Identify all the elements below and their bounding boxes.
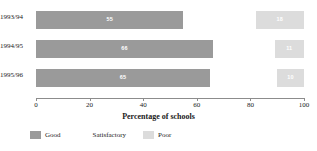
bar-segment-satisfactory-1993-94[interactable]: [183, 11, 255, 29]
bar-value-poor-1994-95: 11: [286, 46, 292, 52]
category-label-1994-95: 1994/95: [0, 43, 33, 50]
bar-value-good-1993-94: 55: [106, 17, 113, 23]
bar-value-good-1995-96: 65: [120, 75, 127, 81]
legend-item-good[interactable]: Good: [30, 131, 61, 139]
legend: Good Satisfactory Poor: [30, 131, 188, 139]
bar-row-1993-94: 55 18: [36, 11, 304, 29]
legend-item-satisfactory[interactable]: Satisfactory: [78, 131, 126, 139]
bar-segment-satisfactory-1994-95[interactable]: [213, 40, 275, 58]
bar-segment-good-1993-94[interactable]: 55: [36, 11, 183, 29]
x-tick-label-0: 0: [34, 102, 38, 109]
bar-row-1994-95: 66 11: [36, 40, 304, 58]
legend-swatch-good-icon: [30, 131, 41, 139]
bar-value-poor-1993-94: 18: [277, 17, 284, 23]
bar-segment-good-1995-96[interactable]: 65: [36, 69, 210, 87]
bar-segment-poor-1994-95[interactable]: 11: [275, 40, 304, 58]
category-label-1995-96: 1995/96: [0, 72, 33, 79]
x-tick-label-80: 80: [247, 102, 254, 109]
bar-segment-good-1994-95[interactable]: 66: [36, 40, 213, 58]
bar-segment-satisfactory-1995-96[interactable]: [210, 69, 277, 87]
legend-label-poor: Poor: [158, 132, 171, 139]
legend-label-good: Good: [45, 132, 61, 139]
x-tick-label-60: 60: [193, 102, 200, 109]
stacked-bar-chart: 1993/94 1994/95 1995/96 55 18 66 11: [0, 0, 317, 151]
x-axis-line: [36, 98, 304, 99]
bar-value-good-1994-95: 66: [121, 46, 128, 52]
bar-segment-poor-1995-96[interactable]: 10: [277, 69, 304, 87]
legend-label-satisfactory: Satisfactory: [93, 132, 126, 139]
x-tick-label-100: 100: [299, 102, 310, 109]
bar-row-1995-96: 65 10: [36, 69, 304, 87]
x-tick-label-40: 40: [140, 102, 147, 109]
legend-swatch-satisfactory-icon: [78, 131, 89, 139]
bar-segment-poor-1993-94[interactable]: 18: [256, 11, 304, 29]
x-axis-title: Percentage of schools: [0, 112, 317, 121]
plot-area: 55 18 66 11 65: [36, 4, 304, 98]
category-label-1993-94: 1993/94: [0, 14, 33, 21]
x-tick-label-20: 20: [86, 102, 93, 109]
bar-value-poor-1995-96: 10: [287, 75, 294, 81]
legend-swatch-poor-icon: [143, 131, 154, 139]
legend-item-poor[interactable]: Poor: [143, 131, 171, 139]
